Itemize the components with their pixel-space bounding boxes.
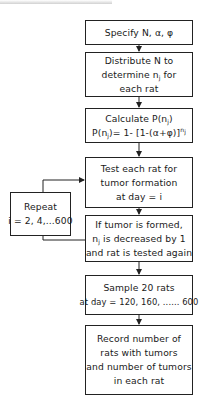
decrease-line-1: If tumor is formed, [95,218,183,232]
calculate-line-1: Calculate P(nj) [105,112,173,126]
test-line-2: tumor formation [101,176,178,190]
sample-line-1: Sample 20 rats [103,281,174,295]
sample-rats-box: Sample 20 rats at day = 120, 160, ......… [85,275,193,315]
repeat-loop-box: Repeat i = 2, 4,...600 [10,192,71,236]
specify-label: Specify N, α, φ [105,26,174,40]
repeat-label: Repeat [24,200,57,214]
decrease-line-3: and rat is tested again [86,246,192,260]
record-line-4: in each rat [114,374,164,388]
loop-repeat-to-test [43,180,84,192]
tumor-decrease-box: If tumor is formed, nj is decreased by 1… [85,215,193,262]
test-line-3: at day = i [116,190,162,204]
distribute-box: Distribute N to determine nj for each ra… [85,52,193,97]
record-results-box: Record number of rats with tumors and nu… [85,325,193,395]
calculate-probability-box: Calculate P(nj) P(nj)= 1- [1-(α+φ)]nj [85,108,193,143]
record-line-3: and number of tumors [86,360,191,374]
decrease-line-2: nj is decreased by 1 [92,232,185,246]
test-tumor-box: Test each rat for tumor formation at day… [85,157,193,208]
distribute-line-3: each rat [120,82,159,96]
sample-line-2: at day = 120, 160, ...... 600 [80,295,199,309]
distribute-line-2: determine nj for [102,68,177,82]
distribute-line-1: Distribute N to [105,54,174,68]
record-line-2: rats with tumors [100,346,177,360]
specify-parameters-box: Specify N, α, φ [85,20,193,45]
probability-formula: P(nj)= 1- [1-(α+φ)]nj [92,126,186,140]
record-line-1: Record number of [97,332,181,346]
repeat-range: i = 2, 4,...600 [8,214,72,228]
test-line-1: Test each rat for [101,162,177,176]
loop-decrease-to-repeat [43,236,85,240]
